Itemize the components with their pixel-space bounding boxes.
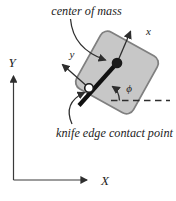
knife-edge-contact-circle	[85, 84, 94, 93]
phi-label: ϕ	[126, 82, 132, 94]
world-y-label: Y	[8, 55, 17, 70]
center-of-mass-label: center of mass	[51, 4, 122, 18]
knife-edge-leader-arrow	[69, 93, 84, 125]
knife-edge-label: knife edge contact point	[56, 126, 173, 140]
world-x-label: X	[100, 173, 110, 188]
body-x-label: x	[145, 25, 151, 37]
plate	[73, 28, 161, 116]
center-of-mass-dot	[112, 58, 123, 69]
body-y-label: y	[69, 48, 75, 60]
physics-diagram: center of mass knife edge contact point …	[0, 0, 176, 201]
